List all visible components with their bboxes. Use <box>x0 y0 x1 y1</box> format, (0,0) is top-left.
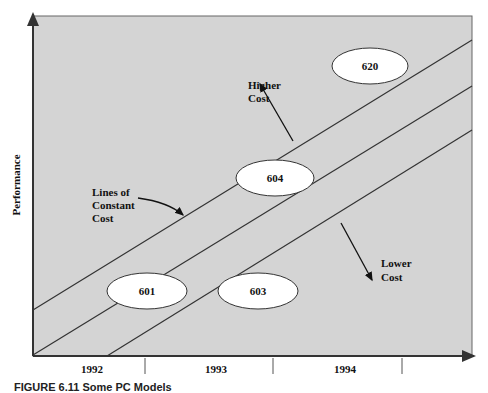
figure-caption: FIGURE 6.11 Some PC Models <box>14 381 172 393</box>
x-tick-label-1994: 1994 <box>334 363 357 375</box>
svg-text:Cost: Cost <box>92 212 114 224</box>
model-604-label: 604 <box>267 172 284 184</box>
svg-text:Lines of: Lines of <box>92 186 130 198</box>
model-620: 620 <box>332 48 408 84</box>
svg-text:Higher: Higher <box>248 79 281 91</box>
svg-text:Cost: Cost <box>248 92 270 104</box>
model-601-label: 601 <box>139 285 156 297</box>
x-tick-label-1993: 1993 <box>205 363 228 375</box>
model-604: 604 <box>236 160 314 196</box>
model-620-label: 620 <box>362 60 379 72</box>
model-603: 603 <box>218 273 298 309</box>
y-axis-label: Performance <box>10 154 22 215</box>
svg-text:Cost: Cost <box>381 271 403 283</box>
model-601: 601 <box>107 273 187 309</box>
svg-text:Lower: Lower <box>381 257 412 269</box>
x-tick-label-1992: 1992 <box>81 363 104 375</box>
svg-text:Constant: Constant <box>92 199 135 211</box>
model-603-label: 603 <box>250 285 267 297</box>
